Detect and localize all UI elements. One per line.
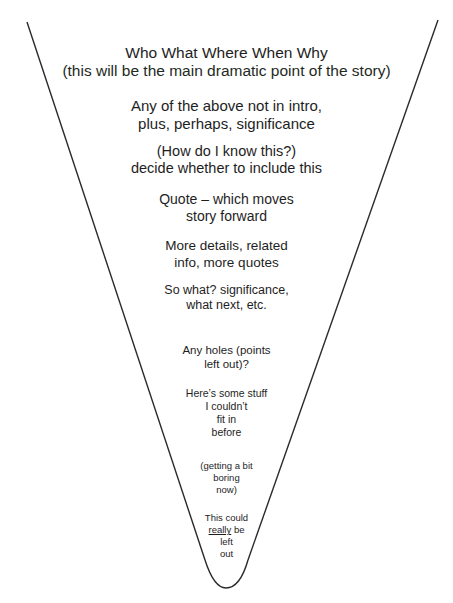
block-more-details: More details, related info, more quotes (0, 237, 453, 271)
block-quote-line-2: story forward (0, 208, 453, 225)
block-how-do-i-know-line-1: (How do I know this?) (0, 143, 453, 160)
block-how-do-i-know: (How do I know this?) decide whether to … (0, 143, 453, 177)
block-could-be-left-out-be: be (234, 524, 245, 535)
funnel-bottom-curve (205, 560, 248, 588)
block-5w-line-1: Who What Where When Why (0, 44, 453, 62)
block-so-what-line-1: So what? significance, (0, 283, 453, 298)
block-could-be-left-out-line-1: This could (0, 512, 453, 524)
block-any-holes-line-2: left out)? (0, 357, 453, 371)
block-not-in-intro-line-1: Any of the above not in intro, (0, 97, 453, 115)
block-quote-line-1: Quote – which moves (0, 191, 453, 208)
block-so-what: So what? significance, what next, etc. (0, 283, 453, 313)
block-could-be-left-out-line-2: really be (0, 524, 453, 536)
block-5w: Who What Where When Why (this will be th… (0, 44, 453, 80)
block-extra-stuff-line-2: I couldn’t (0, 400, 453, 413)
block-any-holes: Any holes (points left out)? (0, 343, 453, 371)
block-quote: Quote – which moves story forward (0, 191, 453, 225)
block-5w-line-2: (this will be the main dramatic point of… (0, 62, 453, 80)
block-more-details-line-1: More details, related (0, 237, 453, 254)
block-extra-stuff: Here’s some stuff I couldn’t fit in befo… (0, 387, 453, 439)
block-could-be-left-out: This could really be left out (0, 512, 453, 560)
underlined-word-really: really (209, 524, 232, 535)
block-extra-stuff-line-3: fit in (0, 413, 453, 426)
block-so-what-line-2: what next, etc. (0, 298, 453, 313)
block-getting-boring-line-1: (getting a bit (0, 460, 453, 472)
block-how-do-i-know-line-2: decide whether to include this (0, 160, 453, 177)
block-could-be-left-out-line-4: out (0, 548, 453, 560)
block-getting-boring-line-2: boring (0, 472, 453, 484)
block-more-details-line-2: info, more quotes (0, 254, 453, 271)
block-extra-stuff-line-1: Here’s some stuff (0, 387, 453, 400)
block-not-in-intro-line-2: plus, perhaps, significance (0, 115, 453, 133)
block-could-be-left-out-line-3: left (0, 536, 453, 548)
block-not-in-intro: Any of the above not in intro, plus, per… (0, 97, 453, 133)
block-any-holes-line-1: Any holes (points (0, 343, 453, 357)
block-extra-stuff-line-4: before (0, 426, 453, 439)
block-getting-boring-line-3: now) (0, 484, 453, 496)
block-getting-boring: (getting a bit boring now) (0, 460, 453, 496)
